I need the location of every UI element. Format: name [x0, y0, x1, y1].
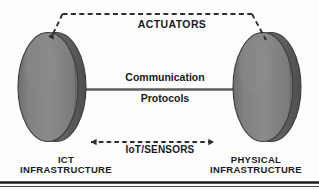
connector-label-iot-sensors: IoT/SENSORS [110, 145, 210, 156]
node-label-physical-line2: INFRASTRUCTURE [196, 165, 316, 175]
footer-rule [0, 183, 319, 187]
node-label-ict-line2: INFRASTRUCTURE [4, 165, 128, 175]
diagram-canvas: ACTUATORS Communication Protocols IoT/SE… [0, 0, 319, 190]
connector-label-protocols: Protocols [112, 93, 218, 104]
connector-label-actuators: ACTUATORS [124, 19, 220, 30]
node-ict-infrastructure[interactable] [18, 33, 86, 142]
connector-label-communication: Communication [110, 72, 220, 83]
node-label-ict: ICT INFRASTRUCTURE [4, 155, 128, 175]
node-physical-infrastructure[interactable] [233, 33, 301, 142]
node-label-physical: PHYSICAL INFRASTRUCTURE [196, 155, 316, 175]
